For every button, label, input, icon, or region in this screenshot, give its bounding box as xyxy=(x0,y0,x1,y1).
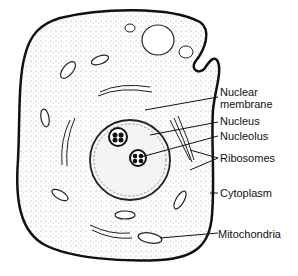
label-nucleus: Nucleus xyxy=(220,115,260,127)
label-cytoplasm: Cytoplasm xyxy=(220,187,272,199)
vacuole xyxy=(142,25,174,55)
label-mitochondria: Mitochondria xyxy=(218,228,281,240)
label-line: Nuclear xyxy=(220,86,273,98)
label-nucleolus: Nucleolus xyxy=(220,130,268,142)
vacuole xyxy=(179,46,193,58)
label-ribosomes: Ribosomes xyxy=(220,152,275,164)
vacuole xyxy=(125,24,135,32)
label-nuclear-membrane: Nuclear membrane xyxy=(220,86,273,110)
label-line: membrane xyxy=(220,98,273,110)
